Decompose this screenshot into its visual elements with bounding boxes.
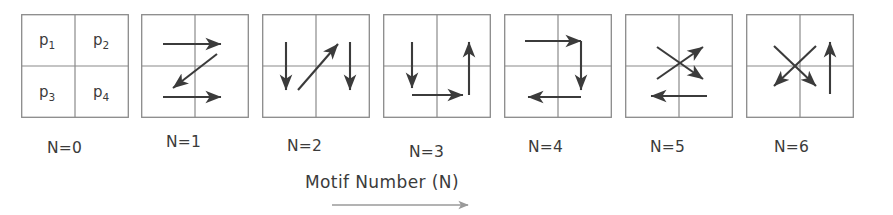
motif-label-6: N=6 <box>774 138 809 156</box>
quadrant-label-p1: p1 <box>39 31 55 51</box>
quadrant-label-p2: p2 <box>93 31 109 51</box>
motif-boxes-row: p1p2p3p4 <box>0 0 893 132</box>
quadrant-label-base: p <box>39 83 49 101</box>
motif-label-0: N=0 <box>47 139 82 157</box>
quadrant-label-subscript: 4 <box>103 91 110 103</box>
motif-cell-6 <box>746 14 854 118</box>
right-arrow-icon <box>330 196 480 215</box>
motif-label-3: N=3 <box>409 143 444 161</box>
quadrant-label-base: p <box>39 31 49 49</box>
motif-cell-5 <box>625 14 733 118</box>
motif-cell-0: p1p2p3p4 <box>21 14 129 118</box>
quadrant-label-base: p <box>93 83 103 101</box>
motif-figure: p1p2p3p4 N=0N=1N=2N=3N=4N=5N=6 Motif Num… <box>0 0 893 215</box>
quadrant-label-subscript: 2 <box>103 39 110 51</box>
quadrant-label-subscript: 3 <box>49 91 56 103</box>
motif-label-5: N=5 <box>650 138 685 156</box>
quadrant-label-p3: p3 <box>39 83 55 103</box>
caption-area: Motif Number (N) <box>0 172 893 215</box>
quadrant-label-subscript: 1 <box>49 39 56 51</box>
motif-cell-2 <box>262 14 370 118</box>
motif-labels-row: N=0N=1N=2N=3N=4N=5N=6 <box>0 130 893 170</box>
motif-label-1: N=1 <box>166 133 201 151</box>
motif-cell-3 <box>383 14 491 118</box>
diagonal-up-right-arrow <box>298 44 338 90</box>
motif-label-4: N=4 <box>528 138 563 156</box>
quadrant-label-base: p <box>93 31 103 49</box>
motif-cell-1 <box>141 14 249 118</box>
quadrant-label-p4: p4 <box>93 83 109 103</box>
motif-cell-4 <box>504 14 612 118</box>
figure-caption: Motif Number (N) <box>305 172 459 192</box>
motif-label-2: N=2 <box>287 137 322 155</box>
